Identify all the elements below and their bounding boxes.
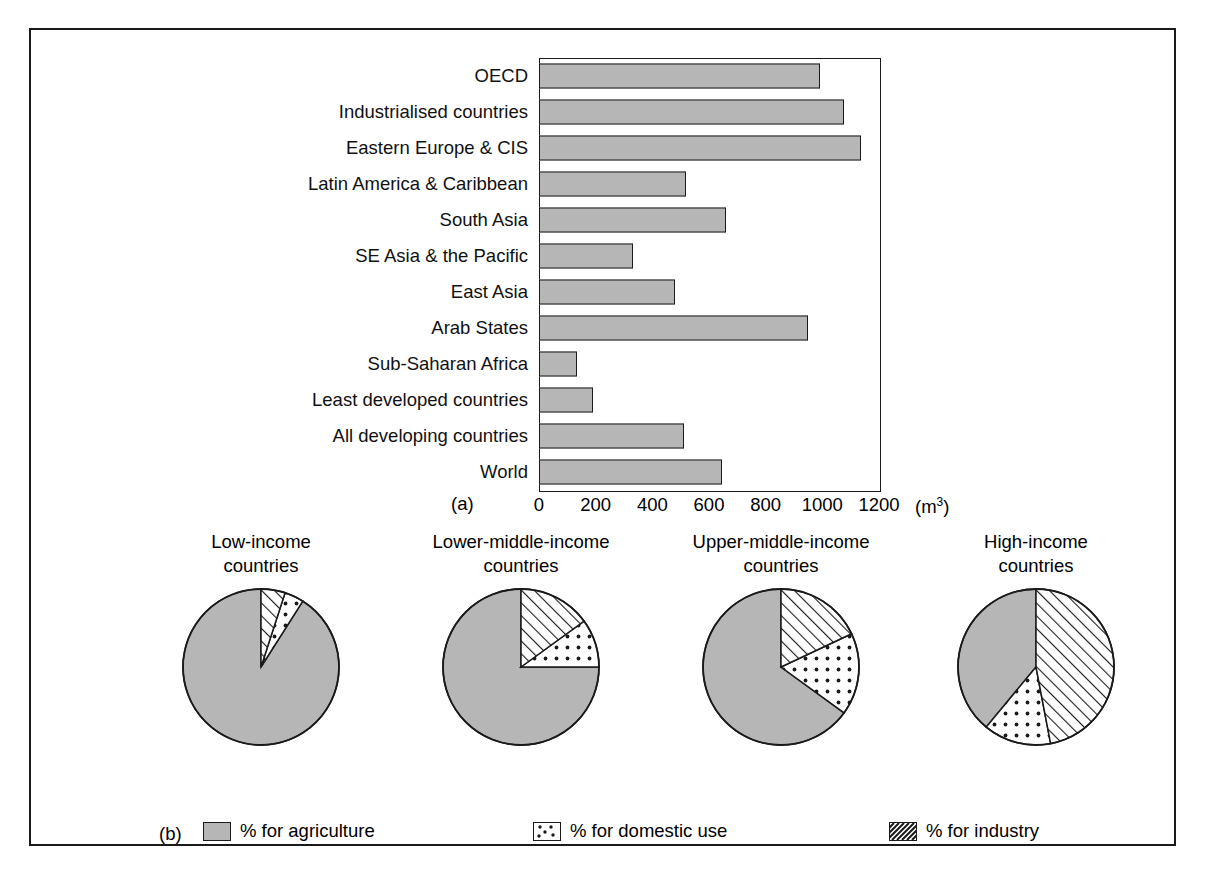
bar-rect xyxy=(539,460,722,485)
bar-rect xyxy=(539,352,577,377)
bar-category-label: Eastern Europe & CIS xyxy=(346,139,528,158)
panel-b-label: (b) xyxy=(159,825,182,844)
bar-rect xyxy=(539,388,593,413)
legend-swatch-agriculture xyxy=(203,822,231,841)
pie-chart-canvas xyxy=(181,587,341,747)
bar-row: Least developed countries xyxy=(539,382,879,418)
unit-open: (m xyxy=(915,496,937,517)
pie-chart-title: High-incomecountries xyxy=(911,530,1161,577)
figure-frame: (a) OECDIndustrialised countriesEastern … xyxy=(29,28,1176,846)
bar-row: SE Asia & the Pacific xyxy=(539,238,879,274)
bar-row: South Asia xyxy=(539,202,879,238)
pie-chart-block: Low-incomecountries xyxy=(136,530,386,747)
pie-title-line-1: High-income xyxy=(911,530,1161,554)
bar-category-label: All developing countries xyxy=(333,427,528,446)
pie-chart-title: Upper-middle-incomecountries xyxy=(656,530,906,577)
pie-title-line-1: Low-income xyxy=(136,530,386,554)
bar-row: All developing countries xyxy=(539,418,879,454)
pie-title-line-2: countries xyxy=(396,554,646,578)
bar-row: Eastern Europe & CIS xyxy=(539,130,879,166)
legend-label-domestic: % for domestic use xyxy=(570,822,727,841)
pie-title-line-1: Lower-middle-income xyxy=(396,530,646,554)
pie-slice-industry xyxy=(1036,589,1114,744)
x-axis-tick-label: 0 xyxy=(534,496,544,515)
pie-title-line-2: countries xyxy=(656,554,906,578)
panel-a-label: (a) xyxy=(451,495,474,514)
legend-item-industry: % for industry xyxy=(889,822,1039,841)
bar-chart-unit-label: (m3) xyxy=(915,496,949,517)
pie-chart-canvas xyxy=(701,587,861,747)
pie-chart-canvas xyxy=(441,587,601,747)
bar-rect xyxy=(539,64,820,89)
bar-row: East Asia xyxy=(539,274,879,310)
x-axis-tick-label: 200 xyxy=(580,496,611,515)
bar-rect xyxy=(539,172,686,197)
legend-item-domestic: % for domestic use xyxy=(533,822,727,841)
pie-chart-title: Lower-middle-incomecountries xyxy=(396,530,646,577)
bar-rect xyxy=(539,424,684,449)
bar-rect xyxy=(539,100,844,125)
legend-label-industry: % for industry xyxy=(926,822,1039,841)
bar-category-label: World xyxy=(480,463,528,482)
bar-row: Sub-Saharan Africa xyxy=(539,346,879,382)
legend-label-agriculture: % for agriculture xyxy=(240,822,375,841)
bar-category-label: Arab States xyxy=(431,319,528,338)
bar-rect xyxy=(539,316,808,341)
bar-row: Industrialised countries xyxy=(539,94,879,130)
bar-chart-x-axis: 020040060080010001200 xyxy=(539,496,879,522)
legend-swatch-industry xyxy=(889,822,917,841)
bar-rect xyxy=(539,244,633,269)
bar-category-label: OECD xyxy=(475,67,528,86)
pie-chart-block: High-incomecountries xyxy=(911,530,1161,747)
bar-category-label: Sub-Saharan Africa xyxy=(368,355,528,374)
bar-rect xyxy=(539,136,861,161)
bar-category-label: Latin America & Caribbean xyxy=(308,175,528,194)
legend-item-agriculture: % for agriculture xyxy=(203,822,375,841)
x-axis-tick-label: 400 xyxy=(637,496,668,515)
pie-title-line-1: Upper-middle-income xyxy=(656,530,906,554)
pie-chart-block: Lower-middle-incomecountries xyxy=(396,530,646,747)
bar-rect xyxy=(539,280,675,305)
bar-category-label: Least developed countries xyxy=(312,391,528,410)
bar-category-label: Industrialised countries xyxy=(339,103,528,122)
panel-a-bar-chart: (a) OECDIndustrialised countriesEastern … xyxy=(31,30,1178,530)
x-axis-tick-label: 1200 xyxy=(858,496,899,515)
x-axis-tick-label: 1000 xyxy=(802,496,843,515)
pie-title-line-2: countries xyxy=(136,554,386,578)
x-axis-tick-label: 600 xyxy=(694,496,725,515)
pie-chart-title: Low-incomecountries xyxy=(136,530,386,577)
bar-row: Arab States xyxy=(539,310,879,346)
panel-b-pie-charts: Low-incomecountriesLower-middle-incomeco… xyxy=(31,530,1178,848)
bar-category-label: SE Asia & the Pacific xyxy=(355,247,528,266)
bar-row: Latin America & Caribbean xyxy=(539,166,879,202)
pie-title-line-2: countries xyxy=(911,554,1161,578)
pie-chart-canvas xyxy=(956,587,1116,747)
bar-category-label: South Asia xyxy=(440,211,528,230)
pie-chart-block: Upper-middle-incomecountries xyxy=(656,530,906,747)
unit-close: ) xyxy=(943,496,949,517)
bar-row: OECD xyxy=(539,58,879,94)
legend-swatch-domestic xyxy=(533,822,561,841)
x-axis-tick-label: 800 xyxy=(750,496,781,515)
bar-rect xyxy=(539,208,726,233)
bar-category-label: East Asia xyxy=(451,283,528,302)
bar-row: World xyxy=(539,454,879,490)
